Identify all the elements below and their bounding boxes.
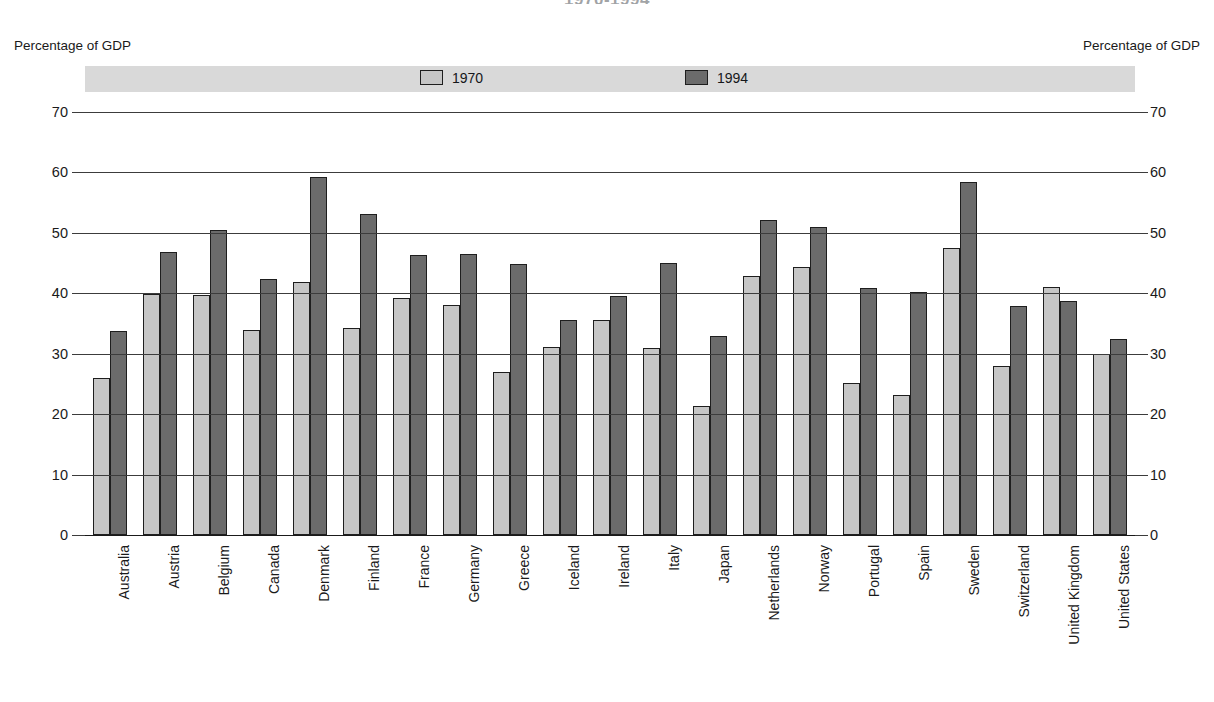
bar-1970[interactable] xyxy=(293,282,310,535)
x-axis-label: Ireland xyxy=(616,545,632,588)
y-tick-label-right: 70 xyxy=(1150,105,1196,120)
gridline xyxy=(85,293,1135,294)
bar-1994[interactable] xyxy=(410,255,427,535)
x-label-cell: Sweden xyxy=(935,537,985,687)
bar-1994[interactable] xyxy=(110,331,127,535)
bar-1994[interactable] xyxy=(660,263,677,535)
x-label-cell: Japan xyxy=(685,537,735,687)
bar-1970[interactable] xyxy=(493,372,510,535)
bar-1970[interactable] xyxy=(543,347,560,535)
x-label-cell: Switzerland xyxy=(985,537,1035,687)
x-axis-label: Portugal xyxy=(866,545,882,597)
bar-1994[interactable] xyxy=(1110,339,1127,535)
legend-label: 1970 xyxy=(452,71,483,85)
bar-1994[interactable] xyxy=(610,296,627,535)
x-axis-label: France xyxy=(416,545,432,589)
bar-1970[interactable] xyxy=(243,330,260,535)
x-label-cell: Iceland xyxy=(535,537,585,687)
bar-1994[interactable] xyxy=(760,220,777,535)
bar-1994[interactable] xyxy=(510,264,527,535)
bar-1970[interactable] xyxy=(393,298,410,535)
bar-1970[interactable] xyxy=(893,395,910,535)
bar-1994[interactable] xyxy=(310,177,327,535)
bar-1970[interactable] xyxy=(943,248,960,535)
x-axis-label: Finland xyxy=(366,545,382,591)
x-axis-label: Germany xyxy=(466,545,482,603)
bar-1994[interactable] xyxy=(460,254,477,535)
legend-swatch-icon xyxy=(420,70,443,85)
tick-mark-left xyxy=(72,293,85,294)
gdp-bar-chart: 1970-1994 Percentage of GDP Percentage o… xyxy=(0,0,1214,702)
y-tick-label-right: 50 xyxy=(1150,226,1196,241)
bar-1994[interactable] xyxy=(360,214,377,535)
y-tick-label-left: 50 xyxy=(22,226,68,241)
tick-mark-right xyxy=(1135,475,1148,476)
y-tick-label-left: 60 xyxy=(22,165,68,180)
bar-group xyxy=(935,112,985,535)
x-label-cell: United States xyxy=(1085,537,1135,687)
bar-group xyxy=(385,112,435,535)
tick-mark-right xyxy=(1135,172,1148,173)
bar-1994[interactable] xyxy=(860,288,877,535)
x-label-cell: Canada xyxy=(235,537,285,687)
bar-group xyxy=(885,112,935,535)
bar-1994[interactable] xyxy=(1060,301,1077,535)
bar-1970[interactable] xyxy=(343,328,360,535)
bar-group xyxy=(1035,112,1085,535)
x-axis-label: Greece xyxy=(516,545,532,591)
y-tick-label-left: 70 xyxy=(22,105,68,120)
bar-1970[interactable] xyxy=(693,406,710,535)
bar-1970[interactable] xyxy=(793,267,810,535)
bar-1994[interactable] xyxy=(560,320,577,535)
tick-mark-left xyxy=(72,354,85,355)
tick-mark-right xyxy=(1135,112,1148,113)
x-label-cell: Greece xyxy=(485,537,535,687)
tick-mark-left xyxy=(72,112,85,113)
x-axis-label: Norway xyxy=(816,545,832,592)
bar-group xyxy=(485,112,535,535)
gridline xyxy=(85,233,1135,234)
bar-1970[interactable] xyxy=(993,366,1010,535)
tick-mark-right xyxy=(1135,293,1148,294)
legend-label: 1994 xyxy=(717,71,748,85)
bar-1994[interactable] xyxy=(160,252,177,535)
x-label-cell: Australia xyxy=(85,537,135,687)
bar-1970[interactable] xyxy=(843,383,860,535)
bar-group xyxy=(685,112,735,535)
bar-group xyxy=(635,112,685,535)
bar-1970[interactable] xyxy=(643,348,660,535)
y-tick-label-left: 30 xyxy=(22,347,68,362)
bar-1994[interactable] xyxy=(960,182,977,536)
bar-1970[interactable] xyxy=(1093,354,1110,535)
tick-mark-right xyxy=(1135,233,1148,234)
x-label-cell: Portugal xyxy=(835,537,885,687)
bar-1970[interactable] xyxy=(593,320,610,535)
bar-1994[interactable] xyxy=(710,336,727,535)
bar-group xyxy=(985,112,1035,535)
bar-1994[interactable] xyxy=(210,230,227,535)
legend-item-1970[interactable]: 1970 xyxy=(420,70,483,85)
x-label-cell: Netherlands xyxy=(735,537,785,687)
x-axis-label: Australia xyxy=(116,545,132,599)
bar-1970[interactable] xyxy=(93,378,110,535)
legend-item-1994[interactable]: 1994 xyxy=(685,70,748,85)
tick-mark-right xyxy=(1135,354,1148,355)
bar-1994[interactable] xyxy=(810,227,827,535)
bar-group xyxy=(235,112,285,535)
bar-group xyxy=(835,112,885,535)
gridline xyxy=(85,535,1135,536)
tick-mark-right xyxy=(1135,414,1148,415)
bar-1994[interactable] xyxy=(260,279,277,535)
bar-group xyxy=(135,112,185,535)
bar-1970[interactable] xyxy=(1043,287,1060,535)
bar-group xyxy=(785,112,835,535)
gridline xyxy=(85,414,1135,415)
bar-1994[interactable] xyxy=(1010,306,1027,535)
bar-1970[interactable] xyxy=(443,305,460,535)
x-label-cell: Finland xyxy=(335,537,385,687)
tick-mark-left xyxy=(72,233,85,234)
y-tick-label-left: 20 xyxy=(22,407,68,422)
bar-1970[interactable] xyxy=(743,276,760,535)
x-axis-label: Belgium xyxy=(216,545,232,596)
bar-group xyxy=(585,112,635,535)
